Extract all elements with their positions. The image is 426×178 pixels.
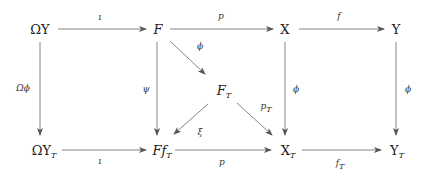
- node-f: F: [153, 22, 162, 37]
- node-y: Y: [392, 22, 401, 37]
- node-x-t: XT: [281, 143, 296, 160]
- label-phi-diag: ϕ: [197, 41, 203, 51]
- node-y-t: YT: [390, 143, 404, 160]
- label-f-t-bottom: fT: [336, 158, 345, 171]
- label-psi: ψ: [142, 84, 149, 94]
- label-p-bottom: p: [219, 157, 225, 167]
- node-f-t: FT: [217, 83, 231, 100]
- node-omega-y-t: ΩYT: [32, 143, 57, 160]
- arrow-FT-FfT: [174, 104, 208, 134]
- label-omega-phi: Ωϕ: [16, 83, 30, 93]
- node-omega-y: ΩY: [30, 22, 49, 37]
- node-ff-t: FfT: [152, 143, 171, 160]
- label-iota-bottom: ι: [98, 156, 102, 166]
- label-p-top: p: [218, 11, 224, 21]
- label-phi-y: ϕ: [405, 84, 411, 94]
- label-f-top: f: [337, 11, 340, 21]
- label-p-t-diag: pT: [260, 101, 271, 114]
- node-x: X: [280, 22, 289, 37]
- label-phi-x: ϕ: [293, 84, 299, 94]
- arrows-layer: [0, 0, 426, 178]
- label-iota-top: ι: [98, 12, 102, 22]
- label-xi: ξ: [198, 127, 203, 137]
